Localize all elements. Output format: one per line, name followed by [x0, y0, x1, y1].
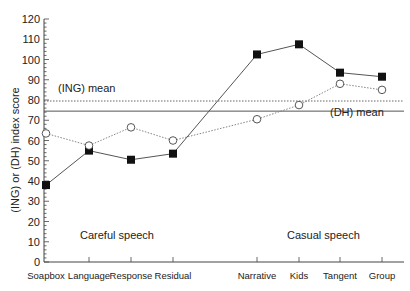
x-category-label: Response — [110, 270, 153, 281]
y-tick-label: 30 — [28, 195, 40, 207]
y-axis-label: (ING) or (DH) index score — [9, 87, 21, 212]
ing-data-point — [336, 80, 344, 88]
line-chart: 0102030405060708090100110120 SoapboxLang… — [0, 0, 410, 291]
y-axis: 0102030405060708090100110120 — [22, 13, 49, 268]
y-tick-label: 100 — [22, 54, 40, 66]
x-category-label: Narrative — [238, 270, 277, 281]
y-tick-label: 90 — [28, 74, 40, 86]
y-tick-label: 70 — [28, 114, 40, 126]
x-axis: SoapboxLanguageResponseResidualNarrative… — [27, 257, 404, 281]
dh-data-point — [127, 156, 135, 164]
careful-speech-label: Careful speech — [80, 229, 154, 241]
x-category-label: Tangent — [323, 270, 357, 281]
ing-data-point — [295, 101, 303, 109]
ing-data-point — [169, 137, 177, 145]
y-tick-label: 110 — [22, 33, 40, 45]
casual-speech-label: Casual speech — [287, 229, 360, 241]
y-tick-label: 60 — [28, 135, 40, 147]
ing-data-point — [85, 142, 93, 150]
y-tick-label: 80 — [28, 94, 40, 106]
dh-data-point — [169, 150, 177, 158]
x-category-label: Residual — [155, 270, 192, 281]
dh-data-point — [336, 69, 344, 77]
dh-data-point — [295, 40, 303, 48]
dh-data-point — [42, 181, 50, 189]
y-tick-label: 0 — [34, 256, 40, 268]
x-category-label: Group — [369, 270, 395, 281]
dh-data-point — [253, 50, 261, 58]
ing-data-point — [127, 124, 135, 132]
dh-data-point — [378, 73, 386, 81]
ing-data-point — [42, 130, 50, 138]
x-category-label: Soapbox — [27, 270, 65, 281]
dh-mean-label: (DH) mean — [330, 106, 384, 118]
y-tick-label: 20 — [28, 216, 40, 228]
y-tick-label: 120 — [22, 13, 40, 25]
y-tick-label: 50 — [28, 155, 40, 167]
ing-mean-label: (ING) mean — [58, 82, 115, 94]
x-category-label: Language — [68, 270, 110, 281]
y-tick-label: 40 — [28, 175, 40, 187]
y-tick-label: 10 — [28, 236, 40, 248]
x-category-label: Kids — [290, 270, 309, 281]
ing-data-point — [378, 86, 386, 94]
ing-data-point — [253, 115, 261, 123]
